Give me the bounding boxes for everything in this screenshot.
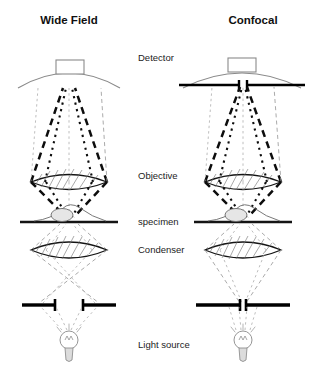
specimen-cell-icon — [20, 205, 118, 222]
emission-rays-upper-wide — [31, 88, 107, 182]
light-bulb-icon-confocal — [231, 324, 255, 362]
label-detector: Detector — [138, 52, 174, 63]
illumination-aperture-closed[interactable] — [196, 299, 290, 311]
detector-dome-icon — [18, 60, 120, 88]
diagram-canvas: Wide Field Confocal Detector Objective s… — [0, 0, 320, 372]
column-wide-field — [18, 60, 120, 362]
detector-dome-icon-confocal — [183, 58, 301, 88]
label-objective: Objective — [138, 170, 178, 181]
label-light-source: Light source — [138, 339, 190, 350]
illumination-aperture-open[interactable] — [22, 299, 116, 311]
title-wide-field: Wide Field — [40, 14, 97, 26]
emission-rays-upper-confocal — [205, 87, 281, 182]
microscopy-comparison-figure: Wide Field Confocal Detector Objective s… — [0, 0, 320, 372]
label-specimen: specimen — [138, 216, 179, 227]
label-condenser: Condenser — [138, 244, 184, 255]
objective-lens-icon — [31, 169, 107, 190]
specimen-cell-icon-confocal — [194, 205, 292, 222]
column-confocal — [179, 58, 305, 362]
light-bulb-icon — [57, 324, 81, 362]
title-confocal: Confocal — [228, 14, 277, 26]
objective-lens-icon-confocal — [205, 169, 281, 190]
